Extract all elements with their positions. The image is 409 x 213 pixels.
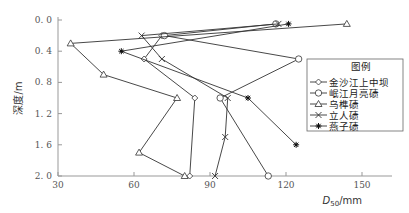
x-tick-label: 90 [204,180,216,190]
series-line [144,36,195,176]
series-line [142,24,279,176]
triangle-marker-icon [136,149,143,155]
circle-marker-icon [315,90,321,96]
y-tick-label: 2. 0 [35,171,52,181]
legend-label: 金沙江上中坝 [329,77,389,88]
chart: 0. 00. 40. 81. 21. 62. 0306090120150深度/m… [0,0,409,213]
circle-marker-icon [265,173,271,179]
x-marker-icon [159,56,165,62]
x-tick-label: 150 [353,180,370,190]
legend-label: 立人碛 [329,110,359,121]
y-tick-label: 1. 2 [35,109,52,119]
legend: 图例金沙江上中坝岷江月亮碛乌榫碛立人碛燕子碛 [307,59,403,132]
circle-marker-icon [217,95,223,101]
legend-label: 燕子碛 [329,121,359,132]
x-tick-label: 120 [277,180,294,190]
legend-label: 乌榫碛 [329,99,359,110]
circle-marker-icon [295,56,301,62]
triangle-marker-icon [343,20,350,26]
series-1 [141,33,198,179]
y-tick-label: 0. 0 [35,15,52,25]
x-axis-label: D50/mm [323,195,362,208]
x-tick-label: 60 [128,180,140,190]
y-axis-label: 深度/m [12,81,24,114]
series-line [164,24,298,176]
y-tick-label: 0. 8 [35,77,52,87]
y-tick-label: 0. 4 [35,46,52,56]
series-line [71,24,347,176]
legend-label: 岷江月亮碛 [329,88,379,99]
legend-title: 图例 [351,61,371,72]
x-tick-label: 30 [52,180,64,190]
y-tick-label: 1. 6 [35,140,52,150]
series-2 [161,21,302,180]
